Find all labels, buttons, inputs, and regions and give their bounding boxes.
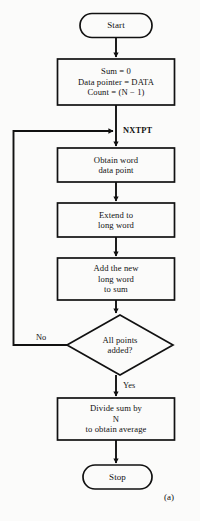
- figure-caption: (a): [164, 492, 174, 502]
- obtain-label-line-2: data point: [98, 165, 133, 175]
- accumulate-label-line-2: long word: [98, 274, 134, 284]
- extend-label-line-1: Extend to: [99, 210, 133, 220]
- edge-label-nxtpt: NXTPT: [123, 126, 152, 135]
- decision-label-line-2: added?: [108, 345, 133, 355]
- init-label-line-2: Data pointer = DATA: [78, 77, 154, 87]
- init-label-line-3: Count = (N − 1): [87, 87, 144, 97]
- init-label-line-1: Sum = 0: [101, 66, 131, 76]
- edge-label-yes: Yes: [123, 381, 135, 390]
- divide-process-label: Divide sum by N to obtain average: [58, 398, 175, 440]
- obtain-label-line-1: Obtain word: [94, 155, 138, 165]
- stop-terminator-label: Stop: [83, 465, 152, 489]
- accumulate-label-line-1: Add the new: [93, 263, 138, 273]
- extend-label-line-2: long word: [98, 220, 134, 230]
- accumulate-process-label: Add the new long word to sum: [58, 258, 175, 300]
- start-label-line: Start: [107, 20, 125, 30]
- obtain-process-label: Obtain word data point: [58, 148, 175, 182]
- start-terminator-label: Start: [80, 14, 152, 38]
- divide-label-line-2: N: [113, 414, 119, 424]
- divide-label-line-1: Divide sum by: [90, 403, 142, 413]
- decision-diamond-label: All points added?: [75, 325, 165, 365]
- decision-label-line-1: All points: [102, 335, 137, 345]
- flowchart-figure: Start Sum = 0 Data pointer = DATA Count …: [0, 0, 200, 521]
- stop-label-line: Stop: [109, 472, 126, 482]
- init-process-label: Sum = 0 Data pointer = DATA Count = (N −…: [58, 59, 175, 105]
- accumulate-label-line-3: to sum: [104, 284, 128, 294]
- extend-process-label: Extend to long word: [58, 203, 175, 237]
- edge-label-no: No: [36, 333, 46, 342]
- divide-label-line-3: to obtain average: [86, 424, 147, 434]
